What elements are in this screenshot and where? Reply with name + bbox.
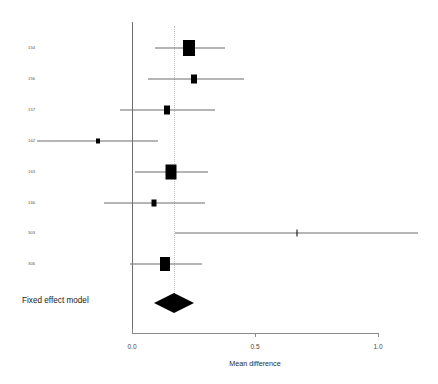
estimate-box: [191, 75, 197, 84]
estimate-box: [160, 257, 170, 271]
x-axis-tick: [132, 329, 133, 333]
x-axis-tick-label: 1.0: [373, 344, 382, 351]
x-axis-tick: [255, 333, 256, 337]
x-axis-tick-label: 0.5: [250, 344, 259, 351]
plot-area: 0.0 0.5 1.0 Mean difference: [0, 0, 438, 384]
estimate-box: [96, 139, 100, 144]
estimate-box: [164, 106, 170, 115]
estimate-box: [297, 230, 298, 237]
pooled-reference-line: [174, 26, 175, 298]
x-axis-tick: [378, 333, 379, 337]
estimate-box: [152, 200, 157, 207]
summary-diamond-shape: [154, 293, 194, 313]
forest-plot: 154 156 157 162 163 166 303 306 Fixed ef…: [0, 0, 438, 384]
estimate-box: [166, 165, 177, 180]
x-axis-tick-label: 0.0: [127, 344, 136, 351]
summary-diamond: [154, 293, 194, 313]
x-axis-title: Mean difference: [229, 360, 280, 367]
null-effect-line: [132, 22, 133, 332]
estimate-box: [183, 40, 195, 56]
